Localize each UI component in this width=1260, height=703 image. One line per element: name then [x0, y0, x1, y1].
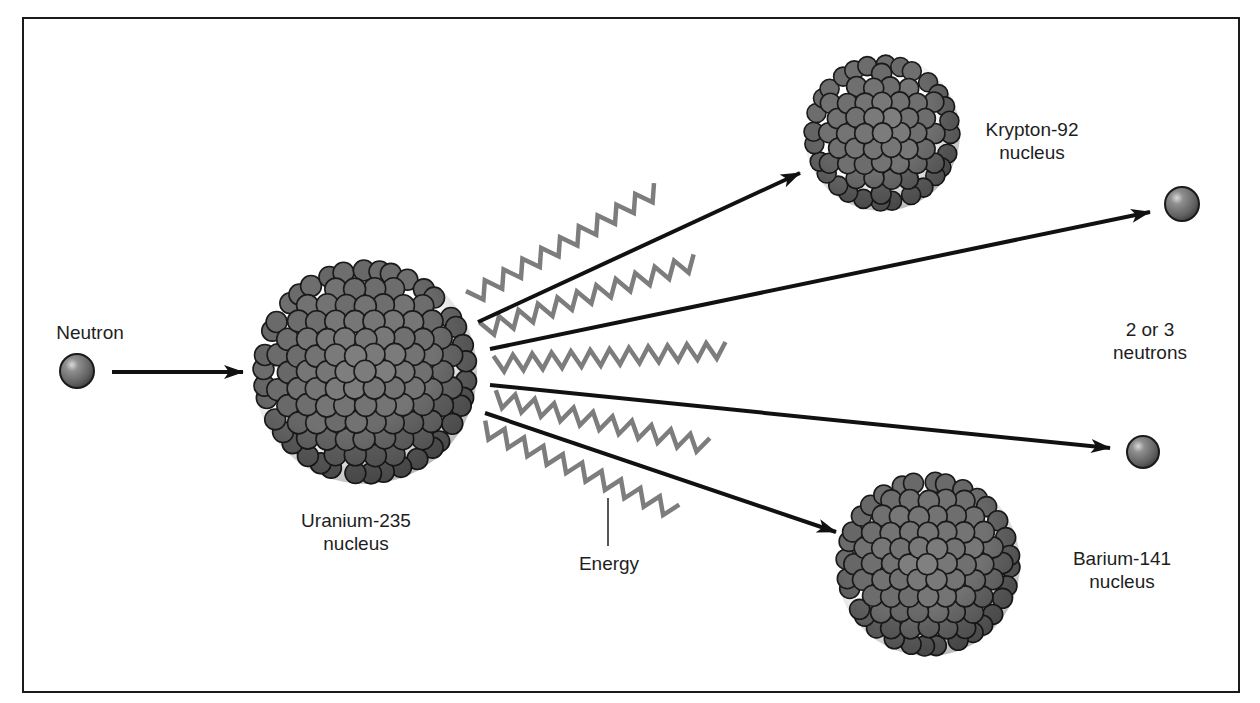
energy-wave-2 — [480, 254, 694, 334]
nucleus-shading — [804, 55, 960, 211]
outgoing-neutron-2 — [1127, 436, 1159, 468]
to-barium-arrow — [485, 413, 836, 532]
energy-wave-3 — [494, 342, 726, 371]
diagram-artwork — [0, 0, 1260, 703]
energy-waves — [466, 183, 726, 515]
uranium-235-nucleus — [253, 260, 477, 484]
krypton-label: Krypton-92 nucleus — [986, 118, 1079, 164]
krypton-label-line1: Krypton-92 — [986, 118, 1079, 141]
outgoing-neutron-1 — [1165, 187, 1199, 221]
uranium-label: Uranium-235 nucleus — [301, 509, 411, 555]
barium-label-line2: nucleus — [1073, 570, 1171, 593]
barium-label-line1: Barium-141 — [1073, 547, 1171, 570]
krypton-label-line2: nucleus — [986, 141, 1079, 164]
uranium-label-line1: Uranium-235 — [301, 509, 411, 532]
energy-wave-4 — [496, 390, 710, 451]
uranium-label-line2: nucleus — [301, 532, 411, 555]
nucleus-shading — [836, 472, 1020, 656]
incoming-neutron — [60, 354, 94, 388]
energy-label: Energy — [579, 552, 639, 575]
fission-diagram: Neutron Uranium-235 nucleus Energy Krypt… — [0, 0, 1260, 703]
neutrons-out-label-line2: neutrons — [1113, 341, 1187, 364]
neutron-label: Neutron — [56, 321, 124, 344]
barium-141-nucleus — [836, 472, 1020, 656]
nucleus-shading — [253, 260, 477, 484]
energy-label-text: Energy — [579, 552, 639, 575]
krypton-92-nucleus — [804, 55, 960, 211]
neutrons-out-label-line1: 2 or 3 — [1113, 318, 1187, 341]
neutrons-out-label: 2 or 3 neutrons — [1113, 318, 1187, 364]
to-neutron-2-arrow — [490, 385, 1110, 448]
neutron-label-text: Neutron — [56, 321, 124, 344]
barium-label: Barium-141 nucleus — [1073, 547, 1171, 593]
